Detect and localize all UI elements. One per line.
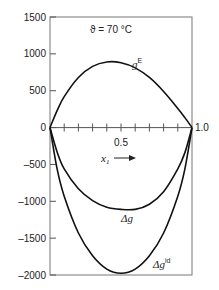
curves [50,62,192,274]
curve-gE [50,62,192,128]
chart: 150010005000–500–1000–1500–2000 0.5 1.0 … [0,0,219,290]
y-tick-label: –2000 [18,270,46,281]
y-tick-label: –1500 [18,233,46,244]
temperature-annotation: ϑ = 70 °C [90,24,132,35]
label-gE: gE [132,57,143,70]
arrow-right-icon [129,155,136,161]
y-tick-label: 0 [40,122,46,133]
label-delta-g-id: Δgid [152,257,171,270]
x-label: x1 [100,152,109,166]
y-tick-label: 1000 [24,48,47,59]
y-tick-label: –500 [24,159,47,170]
y-tick-label: –1000 [18,196,46,207]
y-tick-label: 500 [29,85,46,96]
y-tick-label: 1500 [24,12,47,23]
x-axis-label: x1 [100,152,136,166]
x-tick-label-mid: 0.5 [114,137,128,148]
label-delta-g: Δg [120,212,133,224]
curve-Δgid [50,128,192,274]
x-tick-label-end: 1.0 [195,122,209,133]
